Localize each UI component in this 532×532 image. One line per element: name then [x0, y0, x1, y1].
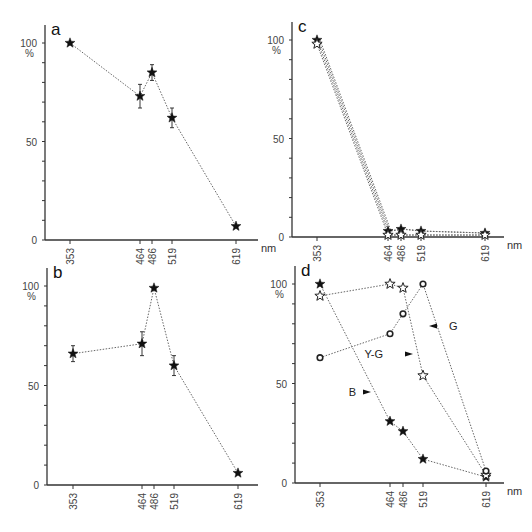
x-tick-label: 486 [147, 248, 158, 265]
panel-b: 050100%b353464486519619 [22, 263, 258, 510]
annotation-y-g: Y-G [364, 348, 383, 360]
x-tick-label: 353 [315, 491, 326, 508]
y-unit-label: % [25, 48, 34, 59]
open-circle-marker [483, 468, 489, 474]
x-tick-label: 486 [396, 245, 407, 262]
panel-letter: c [298, 17, 307, 36]
y-tick-label: 50 [28, 381, 40, 392]
x-unit-label: nm [261, 242, 276, 254]
y-tick-label: 0 [33, 480, 39, 491]
x-tick-label: 619 [480, 245, 491, 262]
open-star-marker [398, 283, 408, 293]
annotation-b: B [349, 386, 356, 398]
y-tick-label: 50 [26, 137, 38, 148]
open-circle-marker [420, 281, 426, 287]
x-tick-label: 464 [385, 491, 396, 508]
panel-c: 050100%c353464486519619nm [267, 17, 522, 262]
x-unit-label: nm [507, 239, 522, 251]
open-circle-marker [400, 311, 406, 317]
filled-star-marker [231, 221, 241, 230]
open-star-marker [312, 39, 322, 49]
x-tick-label: 353 [312, 245, 323, 262]
series-line-shadow [320, 40, 488, 233]
panel-d: 050100%d353464486519619nmBY-GG [270, 261, 522, 508]
x-tick-label: 486 [398, 491, 409, 508]
x-tick-label: 519 [169, 493, 180, 510]
series-line-shadow [320, 44, 488, 235]
annotation-arrow-icon [405, 352, 413, 357]
x-tick-label: 486 [149, 493, 160, 510]
annotation-arrow-icon [363, 390, 371, 395]
x-tick-label: 464 [137, 493, 148, 510]
y-tick-label: 0 [31, 235, 37, 246]
open-circle-marker [317, 355, 323, 361]
panel-letter: a [51, 20, 61, 39]
x-tick-label: 353 [68, 493, 79, 510]
x-tick-label: 619 [481, 491, 492, 508]
x-unit-label: nm [507, 485, 522, 497]
open-star-marker [385, 279, 395, 289]
filled-star-marker [149, 283, 159, 292]
x-tick-label: 464 [135, 248, 146, 265]
annotation-g: G [449, 320, 458, 332]
series-line-filled [317, 40, 485, 233]
panel-letter: b [53, 263, 62, 282]
open-star-marker [315, 291, 325, 301]
series-line-b [73, 288, 238, 473]
x-tick-label: 619 [233, 493, 244, 510]
panel-a: 050100%a353464486519619nm [20, 20, 276, 265]
x-tick-label: 519 [416, 245, 427, 262]
annotation-arrow-icon [429, 324, 437, 329]
filled-star-marker [315, 279, 325, 288]
filled-star-marker [398, 426, 408, 435]
open-star-marker [418, 370, 428, 380]
x-tick-label: 519 [167, 248, 178, 265]
y-unit-label: % [27, 291, 36, 302]
filled-star-marker [418, 454, 428, 463]
x-tick-label: 464 [383, 245, 394, 262]
series-line-open [317, 44, 485, 235]
filled-star-marker [233, 468, 243, 477]
filled-star-marker [385, 416, 395, 425]
y-tick-label: 50 [273, 134, 285, 145]
x-tick-label: 619 [231, 248, 242, 265]
y-tick-label: 50 [276, 379, 288, 390]
y-unit-label: % [275, 289, 284, 300]
figure: 050100%a353464486519619nm050100%b3534644… [0, 0, 532, 532]
open-circle-marker [387, 331, 393, 337]
panel-letter: d [301, 261, 310, 280]
y-tick-label: 0 [281, 478, 287, 489]
y-unit-label: % [272, 45, 281, 56]
x-tick-label: 353 [65, 248, 76, 265]
y-tick-label: 0 [278, 232, 284, 243]
x-tick-label: 519 [418, 491, 429, 508]
